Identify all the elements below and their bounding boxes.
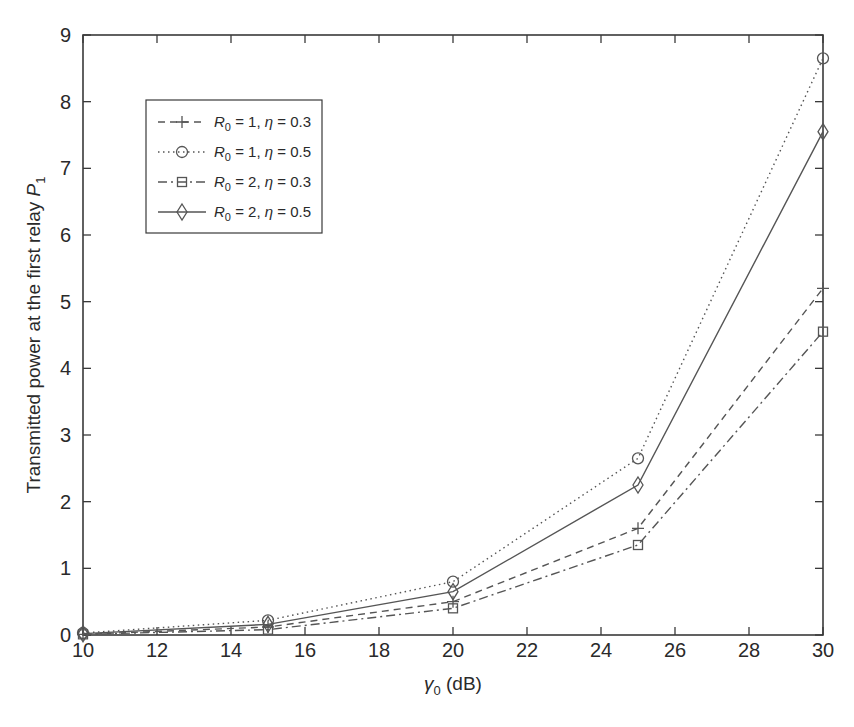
y-tick-label: 6 (60, 224, 71, 246)
y-tick-label: 1 (60, 557, 71, 579)
circle-marker (633, 453, 644, 464)
series-line (83, 288, 823, 634)
y-tick-label: 2 (60, 491, 71, 513)
x-tick-label: 22 (516, 639, 538, 661)
series-line (83, 332, 823, 635)
x-tick-label: 24 (590, 639, 612, 661)
y-tick-label: 4 (60, 357, 71, 379)
x-tick-label: 14 (220, 639, 242, 661)
x-tick-label: 18 (368, 639, 390, 661)
x-tick-label: 12 (146, 639, 168, 661)
x-tick-label: 28 (738, 639, 760, 661)
plus-marker (632, 522, 644, 534)
axis-labels: γ0 (dB)Transmitted power at the first re… (23, 177, 482, 699)
plus-marker (817, 282, 829, 294)
x-axis-label: γ0 (dB) (424, 673, 482, 698)
legend: R0 = 1, η = 0.3R0 = 1, η = 0.5R0 = 2, η … (146, 100, 322, 233)
y-tick-label: 3 (60, 424, 71, 446)
y-tick-label: 8 (60, 91, 71, 113)
x-tick-label: 30 (812, 639, 834, 661)
circle-marker (448, 576, 459, 587)
y-tick-label: 5 (60, 291, 71, 313)
y-tick-label: 0 (60, 624, 71, 646)
y-tick-label: 7 (60, 157, 71, 179)
line-chart: 10121416182022242628300123456789 R0 = 1,… (0, 0, 854, 727)
y-axis-label: Transmitted power at the first relay P1 (23, 177, 48, 494)
y-tick-label: 9 (60, 24, 71, 46)
x-tick-label: 26 (664, 639, 686, 661)
x-tick-label: 20 (442, 639, 464, 661)
x-tick-label: 16 (294, 639, 316, 661)
